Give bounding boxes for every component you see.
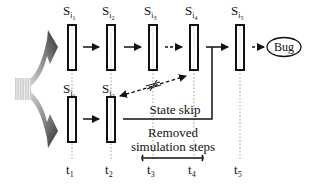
label-sj1: Sj1 — [63, 82, 75, 99]
label-si4: Si4 — [185, 4, 197, 21]
removed-label-line2: simulation steps — [120, 140, 226, 153]
label-sj2: Sj2 — [102, 82, 114, 99]
time-label-t1: t1 — [66, 163, 74, 179]
removed-steps-bracket — [142, 155, 203, 161]
time-label-t5: t5 — [234, 163, 242, 179]
diagram-canvas — [0, 0, 314, 185]
bug-label: Bug — [267, 41, 301, 53]
label-si3: Si3 — [144, 4, 156, 21]
time-label-t4: t4 — [188, 163, 196, 179]
label-si5: Si5 — [231, 4, 243, 21]
time-label-t2: t2 — [105, 163, 113, 179]
removed-label-line1: Removed — [130, 126, 216, 139]
label-si2: Si2 — [102, 4, 114, 21]
label-si1: Si1 — [63, 4, 75, 21]
time-label-t3: t3 — [147, 163, 155, 179]
state-skip-label: State skip — [140, 103, 210, 116]
fork-arrow-icon — [15, 30, 58, 148]
